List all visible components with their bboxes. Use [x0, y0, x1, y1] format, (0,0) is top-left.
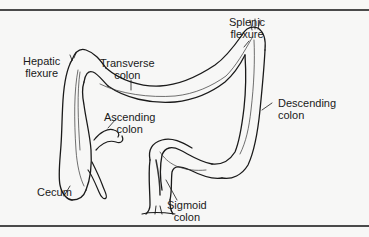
- leader-lines: [64, 41, 272, 200]
- label-splenic-flexure: Splenic flexure: [229, 16, 265, 40]
- colon-diagram-figure: Splenic flexure Hepatic flexure Transver…: [0, 0, 369, 237]
- label-sigmoid-colon: Sigmoid colon: [167, 199, 207, 223]
- label-descending-colon: Descending colon: [278, 97, 336, 121]
- label-ascending-colon: Ascending colon: [104, 111, 155, 135]
- colon-outline: [59, 27, 265, 214]
- label-cecum: Cecum: [37, 186, 72, 198]
- label-hepatic-flexure: Hepatic flexure: [23, 55, 60, 79]
- label-transverse-colon: Transverse colon: [100, 57, 155, 81]
- leader-descending: [262, 103, 272, 110]
